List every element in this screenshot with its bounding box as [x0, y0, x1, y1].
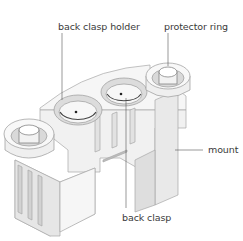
protector-ring-right: [146, 63, 190, 97]
label-back-clasp: back clasp: [122, 212, 171, 223]
label-protector-ring: protector ring: [164, 21, 228, 32]
mount-diagram: [0, 0, 243, 241]
protector-ring-left: [4, 119, 54, 158]
label-mount: mount: [208, 144, 238, 155]
back-clasp-holder-left: [54, 95, 102, 125]
label-back-clasp-holder: back clasp holder: [58, 21, 140, 32]
back-clasp-holder-right: [101, 78, 147, 106]
